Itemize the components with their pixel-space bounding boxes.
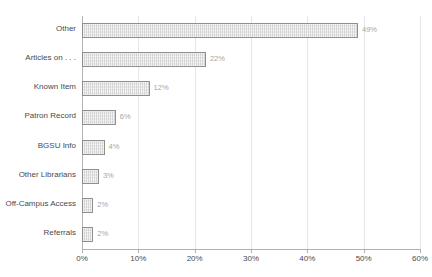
x-tick-label: 10% (130, 254, 146, 263)
x-tick-label: 50% (356, 254, 372, 263)
category-label: Known Item (0, 82, 76, 91)
category-label: Referrals (0, 228, 76, 237)
x-tick-mark (364, 250, 365, 253)
bar-row: 2%Referrals (82, 220, 420, 249)
bar-value-label: 6% (120, 112, 131, 121)
bar-row: 3%Other Librarians (82, 162, 420, 191)
bar-row: 2%Off-Campus Access (82, 191, 420, 220)
bar-row: 22%Articles on . . . (82, 45, 420, 74)
x-tick-label: 20% (187, 254, 203, 263)
category-label: Off-Campus Access (0, 199, 76, 208)
x-tick-mark (420, 250, 421, 253)
bar-value-label: 4% (109, 142, 120, 151)
category-label: Patron Record (0, 111, 76, 120)
bar (82, 227, 93, 242)
x-tick-label: 0% (76, 254, 88, 263)
x-tick-label: 40% (299, 254, 315, 263)
bar-value-label: 12% (154, 83, 169, 92)
x-tick-label: 30% (243, 254, 259, 263)
bar (82, 169, 99, 184)
bar-value-label: 2% (97, 229, 108, 238)
x-tick-label: 60% (412, 254, 428, 263)
bar-chart: 49%Other22%Articles on . . .12%Known Ite… (0, 0, 432, 277)
plot-area: 49%Other22%Articles on . . .12%Known Ite… (82, 16, 420, 249)
bar-value-label: 2% (97, 200, 108, 209)
x-tick-mark (195, 250, 196, 253)
x-tick-mark (82, 250, 83, 253)
category-label: Other (0, 24, 76, 33)
bar-value-label: 49% (362, 25, 377, 34)
bar (82, 81, 150, 96)
clipped-chart-title (0, 0, 432, 2)
category-label: Other Librarians (0, 170, 76, 179)
x-tick-mark (307, 250, 308, 253)
bar (82, 110, 116, 125)
bar-row: 6%Patron Record (82, 103, 420, 132)
bar-row: 4%BGSU Info (82, 133, 420, 162)
category-label: BGSU Info (0, 141, 76, 150)
bar (82, 52, 206, 67)
gridline (420, 16, 421, 249)
bar (82, 198, 93, 213)
bar-row: 49%Other (82, 16, 420, 45)
bar-row: 12%Known Item (82, 74, 420, 103)
bar-value-label: 3% (103, 171, 114, 180)
category-label: Articles on . . . (0, 53, 76, 62)
x-tick-mark (138, 250, 139, 253)
bar-value-label: 22% (210, 54, 225, 63)
x-tick-mark (251, 250, 252, 253)
bar (82, 140, 105, 155)
bar (82, 23, 358, 38)
